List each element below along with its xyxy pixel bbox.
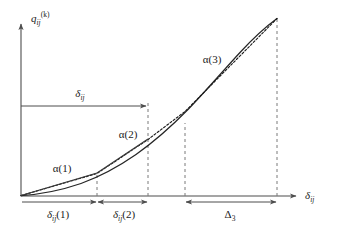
interval-3-main: Δ: [225, 208, 232, 220]
plot-canvas: qij(k) δij δij: [0, 0, 339, 232]
dashed-guide-lines: [97, 19, 277, 196]
x-axis-label-sub: ij: [310, 195, 314, 204]
svg-text:qij(k): qij(k): [31, 10, 50, 27]
segment-label-alpha-3: α(3): [203, 53, 222, 66]
segment-label-alpha-1: α(1): [53, 162, 72, 175]
interval-label-delta-3: Δ3: [225, 208, 236, 223]
interval-1-suffix: (1): [56, 208, 69, 221]
interval-label-delta-ij-1: δij(1): [47, 208, 69, 223]
interval-3-sub: 3: [232, 214, 236, 223]
y-axis-label-sub: ij: [37, 18, 41, 27]
x-axis-label: δij: [305, 189, 314, 204]
figure-container: qij(k) δij δij: [0, 0, 339, 232]
segment-label-alpha-2: α(2): [119, 128, 138, 141]
interval-2-suffix: (2): [122, 208, 135, 221]
segment-labels: α(1) α(2) α(3): [53, 53, 222, 175]
level-label-sub: ij: [80, 93, 84, 102]
interval-labels: δij(1) δij(2) Δ3: [47, 208, 236, 223]
y-axis-label: qij(k): [31, 10, 50, 27]
segment-alpha-1-chord: [21, 173, 97, 196]
segment-alpha-2-chord: [97, 139, 148, 173]
svg-text:δij: δij: [305, 189, 314, 204]
level-line-label: δij: [75, 87, 84, 102]
level-line-group: δij: [21, 87, 146, 106]
y-axis-label-sup: (k): [41, 10, 50, 19]
interval-label-delta-ij-2: δij(2): [113, 208, 135, 223]
